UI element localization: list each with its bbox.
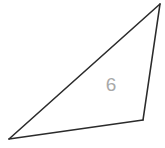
triangle-diagram: 6 (0, 0, 165, 148)
triangle-interior-measure-label: 6 (106, 74, 117, 95)
geometry-figure-canvas: 6 (0, 0, 165, 148)
